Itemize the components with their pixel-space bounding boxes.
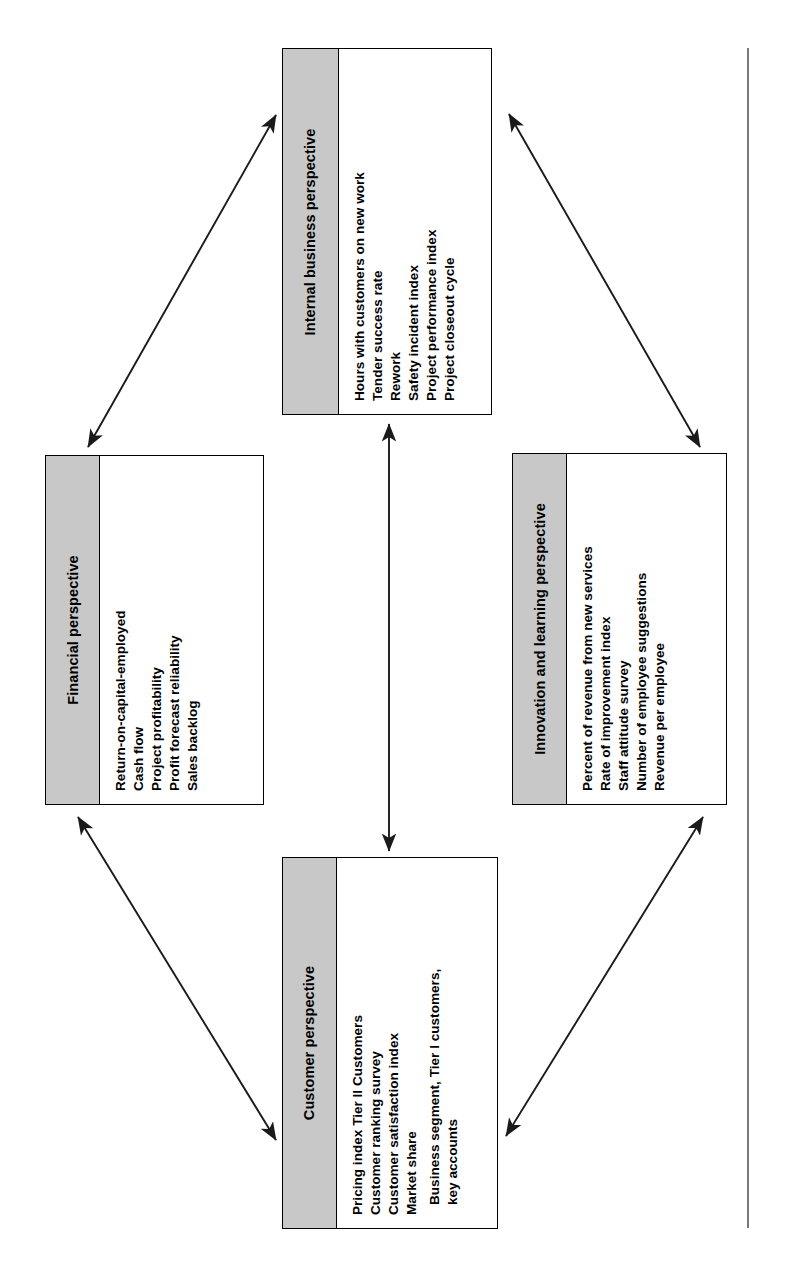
perspective-box-financial[interactable]: Financial perspective Return-on-capital-…	[45, 455, 264, 805]
perspective-title-financial: Financial perspective	[65, 555, 81, 705]
measure-item: Customer ranking survey	[367, 969, 385, 1215]
perspective-header-customer: Customer perspective	[283, 858, 337, 1228]
measure-item: Market share	[403, 969, 421, 1215]
measure-item: Profit forecast reliability	[166, 610, 184, 791]
measure-item: Business segment, Tier I customers,	[426, 969, 444, 1215]
measure-item: key accounts	[444, 969, 462, 1215]
measure-item: Customer satisfaction index	[385, 969, 403, 1215]
perspective-title-customer: Customer perspective	[302, 966, 318, 1120]
measure-item: Revenue per employee	[651, 546, 669, 791]
measure-list: Percent of revenue from new servicesRate…	[579, 546, 669, 791]
measure-item: Project closeout cycle	[441, 172, 459, 401]
measure-item: Project performance index	[423, 172, 441, 401]
measure-item: Staff attitude survey	[615, 546, 633, 791]
perspective-header-innovation-learning: Innovation and learning perspective	[513, 454, 567, 804]
measure-item: Rate of improvement index	[597, 546, 615, 791]
measure-item: Tender success rate	[369, 172, 387, 401]
perspective-measures-innovation-learning: Percent of revenue from new servicesRate…	[567, 454, 726, 804]
measure-item: Number of employee suggestions	[633, 546, 651, 791]
perspective-box-customer[interactable]: Customer perspective Pricing index Tier …	[282, 857, 498, 1229]
perspective-box-innovation-learning[interactable]: Innovation and learning perspective Perc…	[512, 453, 727, 805]
measure-list: Pricing index Tier II CustomersCustomer …	[349, 969, 462, 1215]
perspective-title-innovation-learning: Innovation and learning perspective	[532, 503, 548, 755]
measure-item: Return-on-capital-employed	[112, 610, 130, 791]
measure-item: Sales backlog	[184, 610, 202, 791]
measure-list: Hours with customers on new workTender s…	[351, 172, 459, 401]
perspective-box-internal-business[interactable]: Internal business perspective Hours with…	[282, 48, 492, 415]
connector-internal-innovation	[509, 114, 700, 447]
connector-financial-internal	[88, 115, 276, 447]
perspective-header-internal-business: Internal business perspective	[283, 49, 339, 414]
connector-customer-innovation	[506, 817, 703, 1136]
measure-item: Project profitability	[148, 610, 166, 791]
perspective-measures-financial: Return-on-capital-employedCash flowProje…	[100, 456, 263, 804]
measure-item: Rework	[387, 172, 405, 401]
perspective-measures-internal-business: Hours with customers on new workTender s…	[339, 49, 491, 414]
measure-item: Hours with customers on new work	[351, 172, 369, 401]
measure-list: Return-on-capital-employedCash flowProje…	[112, 610, 202, 791]
diagram-canvas: Internal business perspective Hours with…	[0, 0, 785, 1263]
measure-item: Cash flow	[130, 610, 148, 791]
connector-financial-customer	[78, 817, 276, 1140]
measure-item: Percent of revenue from new services	[579, 546, 597, 791]
perspective-title-internal-business: Internal business perspective	[303, 128, 319, 335]
perspective-header-financial: Financial perspective	[46, 456, 100, 804]
measure-item: Pricing index Tier II Customers	[349, 969, 367, 1215]
measure-item: Safety incident index	[405, 172, 423, 401]
perspective-measures-customer: Pricing index Tier II CustomersCustomer …	[337, 858, 497, 1228]
